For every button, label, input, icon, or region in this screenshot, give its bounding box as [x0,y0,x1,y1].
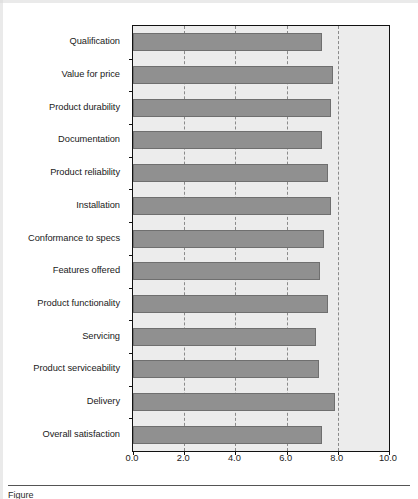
bar [133,131,322,149]
category-label: Overall satisfaction [0,429,120,439]
category-label: Documentation [0,134,120,144]
category-label: Qualification [0,36,120,46]
axis-tick [129,222,133,223]
category-axis-labels: QualificationValue for priceProduct dura… [0,25,126,450]
category-label: Installation [0,200,120,210]
plot-area [132,25,390,452]
axis-tick [129,189,133,190]
axis-tick [129,288,133,289]
value-axis-tick-label: 4.0 [228,453,241,463]
axis-tick [129,353,133,354]
value-axis-tick-label: 8.0 [330,453,343,463]
category-label: Delivery [0,396,120,406]
figure-container: QualificationValue for priceProduct dura… [0,0,418,499]
bar [133,66,333,84]
bar [133,164,328,182]
bar [133,197,331,215]
bar [133,426,322,444]
axis-tick [129,59,133,60]
bar [133,99,331,117]
value-axis-tick-label: 2.0 [177,453,190,463]
caption-divider [8,485,410,486]
category-label: Product durability [0,102,120,112]
value-axis-tick-label: 10.0 [379,453,397,463]
axis-tick [129,124,133,125]
category-label: Conformance to specs [0,233,120,243]
bar [133,262,320,280]
figure-caption: Figure [8,490,410,499]
bar [133,328,316,346]
gridline [338,26,339,451]
axis-tick [129,418,133,419]
category-label: Servicing [0,331,120,341]
bar [133,295,328,313]
category-label: Product serviceability [0,363,120,373]
category-label: Product reliability [0,167,120,177]
bar [133,393,335,411]
bar [133,33,322,51]
value-axis-tick-label: 0.0 [126,453,139,463]
category-label: Value for price [0,69,120,79]
axis-tick [129,255,133,256]
axis-tick [129,157,133,158]
axis-tick [129,91,133,92]
category-label: Features offered [0,265,120,275]
scan-artifact [0,0,418,3]
bar [133,360,319,378]
bar [133,230,324,248]
axis-tick [129,320,133,321]
axis-tick [129,386,133,387]
value-axis-tick-label: 6.0 [279,453,292,463]
category-label: Product functionality [0,298,120,308]
value-axis-tick-labels: 0.02.04.06.08.010.0 [132,453,388,467]
